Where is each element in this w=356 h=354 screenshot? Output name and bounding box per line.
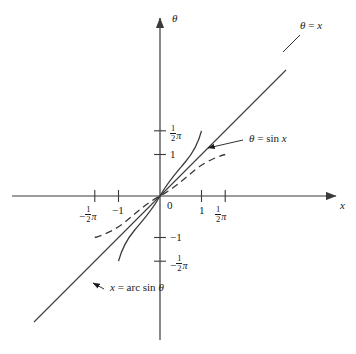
sine-curve-label: θ = sin x <box>249 133 287 144</box>
x-tick-label-one: 1 <box>199 205 205 216</box>
pi-symbol: π <box>182 260 187 271</box>
x-tick-label-neg-half-pi: −12π <box>79 205 96 223</box>
y-tick-label-neg-one: −1 <box>170 232 182 243</box>
y-tick-label-neg-half-pi: −12π <box>170 254 187 272</box>
y-tick-label-half-pi: 12π <box>170 124 181 142</box>
arcsine-theta: θ <box>158 281 163 293</box>
origin-label: 0 <box>167 200 173 211</box>
arcsine-curve-label: x = arc sin θ <box>110 282 164 293</box>
sine-leader-line <box>208 140 243 148</box>
sine-function-name: sin <box>266 132 279 144</box>
x-tick-label-neg-one: −1 <box>112 205 124 216</box>
sine-theta: θ <box>249 132 254 144</box>
arcsine-function-name: arc sin <box>127 281 156 293</box>
arcsine-leader-line <box>93 283 104 289</box>
y-tick-label-one: 1 <box>170 149 176 160</box>
sine-x: x <box>282 132 287 144</box>
identity-x: x <box>317 19 322 31</box>
pi-symbol: π <box>91 211 96 222</box>
identity-equals: = <box>308 19 314 31</box>
identity-theta: θ <box>300 19 305 31</box>
x-axis-label: x <box>340 200 345 211</box>
identity-leader-line <box>283 35 300 52</box>
arcsine-equals: = <box>118 281 124 293</box>
identity-line-label: θ = x <box>300 20 322 31</box>
x-tick-label-half-pi: 12π <box>215 205 226 223</box>
plot-canvas <box>0 0 356 354</box>
pi-symbol: π <box>221 211 226 222</box>
function-plot-figure: θ x 0 −12π −1 1 12π 12π 1 −1 −12π θ = x … <box>0 0 356 354</box>
arcsine-x: x <box>110 281 115 293</box>
y-axis-label: θ <box>172 13 177 24</box>
sine-equals: = <box>257 132 263 144</box>
pi-symbol: π <box>176 130 181 141</box>
